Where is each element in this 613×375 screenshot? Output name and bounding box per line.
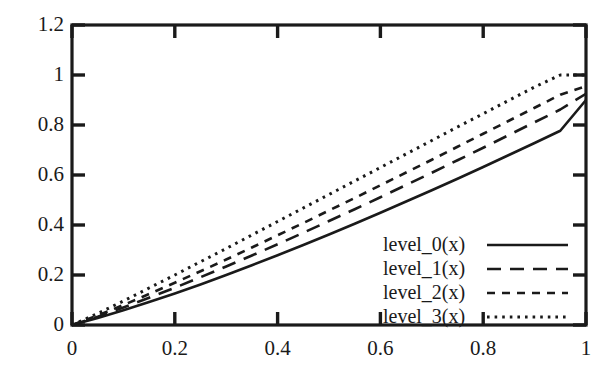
legend-label-2: level_2(x) (383, 282, 465, 302)
y-tick-label: 0.6 (4, 164, 64, 185)
data-series (72, 75, 586, 325)
legend-line-samples (487, 245, 568, 317)
series-line-0 (72, 100, 586, 325)
y-tick-label: 1 (4, 64, 64, 85)
plot-frame (72, 25, 586, 325)
x-tick-label: 1 (556, 338, 613, 359)
legend-label-3: level_3(x) (383, 306, 465, 326)
x-tick-label: 0 (42, 338, 102, 359)
y-tick-label: 0.8 (4, 114, 64, 135)
y-tick-label: 0.4 (4, 214, 64, 235)
axis-ticks (72, 25, 586, 325)
x-tick-label: 0.4 (248, 338, 308, 359)
x-tick-label: 0.6 (350, 338, 410, 359)
chart-container: 00.20.40.60.811.2 00.20.40.60.81 level_0… (0, 0, 613, 375)
legend-label-1: level_1(x) (383, 258, 465, 278)
x-tick-label: 0.8 (453, 338, 513, 359)
y-tick-label: 0.2 (4, 264, 64, 285)
y-tick-label: 0 (4, 314, 64, 335)
series-line-1 (72, 94, 586, 325)
legend-label-0: level_0(x) (383, 234, 465, 254)
series-line-3 (72, 75, 586, 325)
plot-border (72, 25, 586, 325)
plot-area (0, 0, 613, 375)
y-tick-label: 1.2 (4, 14, 64, 35)
x-tick-label: 0.2 (145, 338, 205, 359)
